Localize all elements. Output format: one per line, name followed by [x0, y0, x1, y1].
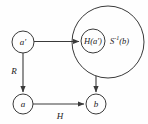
edge-label-h: H	[56, 111, 64, 121]
node-label-a-prime: a′	[20, 37, 28, 47]
node-label-b: b	[94, 99, 99, 109]
node-label-h-a-prime: H(a′)	[83, 36, 102, 46]
diagram-container: a′ a b H(a′) S-1(b) R H	[0, 0, 148, 124]
node-label-a: a	[21, 99, 26, 109]
set-circle-s-inverse-b	[72, 6, 144, 78]
edge-label-r: R	[10, 66, 17, 76]
set-label-tail: (b)	[119, 36, 129, 46]
set-label-s-inverse-b: S-1(b)	[110, 35, 129, 46]
commutative-diagram: a′ a b H(a′) S-1(b) R H	[0, 0, 148, 124]
